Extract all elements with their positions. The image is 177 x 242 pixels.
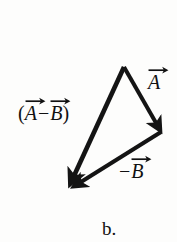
vector-diagram-figure: A − B ( A − B (0, 0, 177, 242)
resultant-a-letter: A (25, 103, 37, 123)
resultant-b-letter: B (50, 103, 62, 123)
resultant-b-accented-glyph: B (50, 103, 62, 123)
minus-sign-prefix: − (118, 160, 131, 182)
vector-a-minus-b-label: ( A − B ) (18, 103, 69, 123)
vector-a-accented-glyph: A (148, 72, 160, 92)
resultant-a-accented-glyph: A (25, 103, 37, 123)
figure-caption: b. (102, 218, 116, 240)
vector-a-letter: A (148, 72, 160, 92)
open-paren: ( (18, 102, 25, 124)
minus-operator: − (37, 102, 50, 124)
close-paren: ) (62, 102, 69, 124)
vector-b-letter: B (131, 161, 143, 181)
vector-b-accented-glyph: B (131, 161, 143, 181)
vector-a-label: A (148, 72, 160, 92)
vector-negative-b-label: − B (118, 161, 144, 181)
